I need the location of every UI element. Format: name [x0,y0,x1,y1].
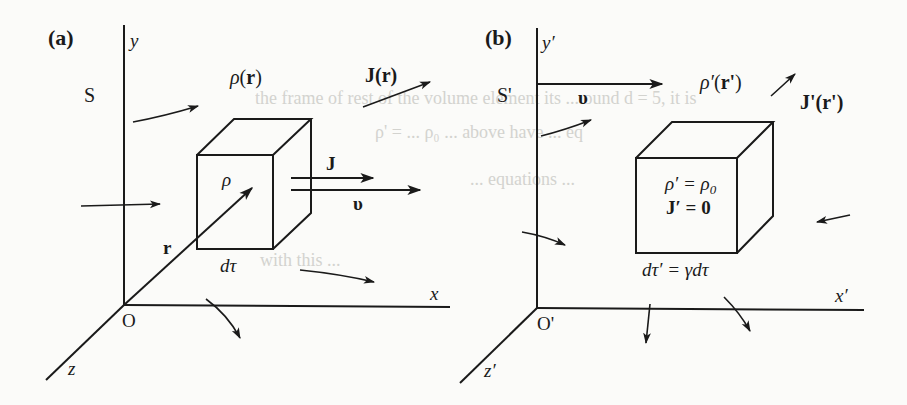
cube-density-label: ρ [221,169,231,190]
flow-arrow [771,74,795,96]
flow-arrow [133,106,198,122]
ghost-line-2: ρ' = ... ρ₀ ... above have ... eq [375,122,583,142]
x-axis-label: x [429,283,439,304]
panel-b: (b) y′ x′ z′ O' S' υ ρ′(r') J'(r') ρ′ = … [460,25,864,383]
x-axis [124,305,450,307]
flow-arrow [81,204,160,206]
origin-label: O [122,310,136,331]
x-prime-axis [537,308,864,310]
flow-arrow [724,297,750,331]
cube-front-face [197,155,273,249]
volume-element-cube [197,119,311,249]
cube-prime-top-face [636,122,773,158]
cube-prime-volume-label: dτ′ = γdτ [642,259,710,280]
frame-label: S [84,84,95,106]
velocity-arrow-label: υ [353,193,363,214]
ghost-line-1: the frame of rest of the volume element … [255,88,697,108]
panel-a-label: (a) [48,25,74,50]
density-prime-field-label: ρ′(r') [699,71,742,94]
figure-svg: the frame of rest of the volume element … [0,0,907,405]
ghost-line-4: with this ... [260,250,341,270]
z-axis-label: z [67,358,76,379]
cube-prime-current-label: J′ = 0 [666,197,711,218]
ghost-line-3: ... equations ... [470,169,575,189]
panel-a: (a) y x z O S ρ(r) J(r) ρ dτ r J υ [46,25,450,380]
z-prime-axis [460,308,537,383]
density-field-label: ρ(r) [229,66,262,89]
cube-prime-density-label: ρ′ = ρ0 [664,173,717,197]
current-prime-field-label: J'(r') [800,91,843,114]
origin-prime-label: O' [537,313,554,334]
flow-arrow [646,304,650,343]
frame-velocity-label: υ [578,87,588,108]
position-vector-arrow [124,188,252,305]
flow-arrow [817,215,850,222]
figure-canvas: the frame of rest of the volume element … [0,0,907,405]
flow-arrow [522,232,565,245]
panel-b-label: (b) [485,25,512,50]
position-vector-label: r [163,237,172,258]
cube-top-face [197,119,311,155]
y-axis-label: y [128,30,139,51]
current-field-label: J(r) [365,64,397,87]
z-axis [46,305,124,380]
cube-volume-label: dτ [220,255,238,276]
flow-arrow [300,270,374,282]
cube-prime-side-face [737,122,773,253]
x-prime-axis-label: x′ [834,285,848,306]
cube-side-face [273,119,311,249]
z-prime-axis-label: z′ [483,360,496,381]
frame-prime-label: S' [497,84,512,106]
current-arrow-label: J [326,153,336,174]
y-prime-axis-label: y′ [540,32,555,53]
